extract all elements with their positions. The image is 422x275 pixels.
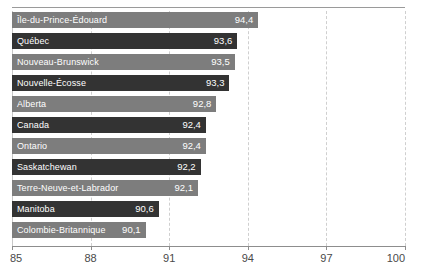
bar-category-label: Colombie-Britannique [17, 222, 106, 238]
axis-label-91: 91 [163, 252, 175, 264]
x-axis-line [12, 246, 406, 247]
axis-tick-97 [326, 246, 327, 250]
axis-tick-88 [91, 246, 92, 250]
bar-row[interactable]: Canada92,4 [12, 117, 206, 133]
axis-tick-85 [12, 246, 13, 250]
bar-value-label: 92,8 [185, 96, 212, 112]
bar-row[interactable]: Nouvelle-Écosse93,3 [12, 75, 229, 91]
axis-label-88: 88 [84, 252, 96, 264]
axis-tick-100 [405, 246, 406, 250]
bar[interactable]: Saskatchewan92,2 [12, 159, 201, 175]
bar-category-label: Alberta [17, 96, 46, 112]
bar[interactable]: Terre-Neuve-et-Labrador92,1 [12, 180, 198, 196]
bar[interactable]: Île-du-Prince-Édouard94,4 [12, 12, 258, 28]
bar-row[interactable]: Île-du-Prince-Édouard94,4 [12, 12, 258, 28]
gridline-94 [248, 11, 249, 246]
bar-value-label: 93,5 [203, 54, 230, 70]
axis-label-85: 85 [10, 252, 22, 264]
bar-value-label: 92,4 [174, 117, 201, 133]
bar-category-label: Nouvelle-Écosse [17, 75, 86, 91]
bar-category-label: Manitoba [17, 201, 55, 217]
bar[interactable]: Nouveau-Brunswick93,5 [12, 54, 235, 70]
bar-value-label: 93,3 [198, 75, 225, 91]
axis-label-100: 100 [387, 252, 405, 264]
bar-row[interactable]: Nouveau-Brunswick93,5 [12, 54, 235, 70]
bar[interactable]: Manitoba90,6 [12, 201, 159, 217]
chart-top-rule [12, 7, 405, 8]
bar-category-label: Nouveau-Brunswick [17, 54, 99, 70]
bar-category-label: Saskatchewan [17, 159, 77, 175]
bar[interactable]: Ontario92,4 [12, 138, 206, 154]
bar-row[interactable]: Saskatchewan92,2 [12, 159, 201, 175]
gridline-100 [405, 11, 406, 246]
bar[interactable]: Alberta92,8 [12, 96, 216, 112]
gridline-97 [326, 11, 327, 246]
bar[interactable]: Canada92,4 [12, 117, 206, 133]
axis-label-97: 97 [320, 252, 332, 264]
bar-category-label: Île-du-Prince-Édouard [17, 12, 107, 28]
bar-category-label: Canada [17, 117, 49, 133]
plot-area: Île-du-Prince-Édouard94,4Québec93,6Nouve… [12, 11, 405, 246]
bar-row[interactable]: Colombie-Britannique90,1 [12, 222, 146, 238]
bar-value-label: 92,4 [174, 138, 201, 154]
bar-value-label: 94,4 [227, 12, 254, 28]
bar-category-label: Ontario [17, 138, 47, 154]
bar-row[interactable]: Manitoba90,6 [12, 201, 159, 217]
bar-value-label: 92,1 [167, 180, 194, 196]
bar-row[interactable]: Québec93,6 [12, 33, 237, 49]
bar-value-label: 92,2 [169, 159, 196, 175]
bar-value-label: 93,6 [206, 33, 233, 49]
bar-category-label: Terre-Neuve-et-Labrador [17, 180, 118, 196]
bar-value-label: 90,1 [114, 222, 141, 238]
axis-tick-94 [248, 246, 249, 250]
bar[interactable]: Nouvelle-Écosse93,3 [12, 75, 229, 91]
bar[interactable]: Québec93,6 [12, 33, 237, 49]
bar-row[interactable]: Terre-Neuve-et-Labrador92,1 [12, 180, 198, 196]
bar-row[interactable]: Ontario92,4 [12, 138, 206, 154]
axis-tick-91 [169, 246, 170, 250]
bar-chart: Île-du-Prince-Édouard94,4Québec93,6Nouve… [0, 0, 422, 275]
bar-row[interactable]: Alberta92,8 [12, 96, 216, 112]
bar-category-label: Québec [17, 33, 49, 49]
bar[interactable]: Colombie-Britannique90,1 [12, 222, 146, 238]
axis-label-94: 94 [242, 252, 254, 264]
bar-value-label: 90,6 [127, 201, 154, 217]
